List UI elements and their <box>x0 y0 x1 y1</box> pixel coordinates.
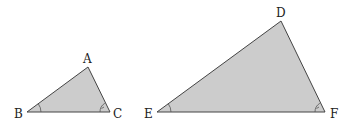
label-d: D <box>276 6 286 20</box>
similar-triangles-diagram: A B C D E F <box>0 0 348 127</box>
triangle-abc: A B C <box>14 52 122 121</box>
label-e: E <box>144 107 153 121</box>
label-a: A <box>82 52 92 66</box>
label-c: C <box>113 107 122 121</box>
triangle-def: D E F <box>144 6 338 121</box>
label-b: B <box>14 107 23 121</box>
label-f: F <box>330 107 338 121</box>
